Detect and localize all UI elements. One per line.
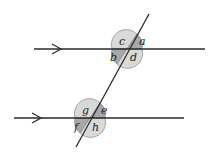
label-h: h	[92, 121, 99, 134]
label-e: e	[101, 104, 108, 117]
label-d: d	[130, 51, 137, 64]
label-c: c	[119, 35, 125, 48]
label-g: g	[82, 104, 89, 117]
label-a: a	[139, 35, 146, 48]
transversal-line	[76, 14, 149, 147]
angles-diagram: c a b d g e f h	[0, 0, 220, 152]
label-b: b	[110, 51, 117, 64]
